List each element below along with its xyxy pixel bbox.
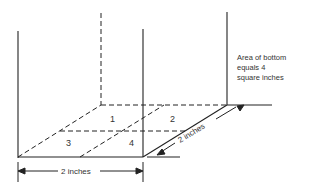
square-label-1: 1 <box>110 114 115 124</box>
arrowhead-left-icon <box>18 168 25 174</box>
width-dimension-label: 2 inches <box>61 167 91 176</box>
arrowhead-right-icon <box>136 168 143 174</box>
square-label-3: 3 <box>66 138 71 148</box>
square-label-4: 4 <box>129 138 134 148</box>
annotation-line-3: square inches <box>237 73 313 83</box>
box-diagram: 1 2 3 4 2 inches 2 inches <box>0 0 313 188</box>
area-annotation: Area of bottom equals 4 square inches <box>237 53 313 83</box>
depth-line-upper <box>216 107 236 119</box>
annotation-line-1: Area of bottom <box>237 53 313 63</box>
square-label-2: 2 <box>170 114 175 124</box>
depth-dimension-label: 2 inches <box>176 122 206 145</box>
annotation-line-2: equals 4 <box>237 63 313 73</box>
arrowhead-upper-icon <box>237 105 244 111</box>
